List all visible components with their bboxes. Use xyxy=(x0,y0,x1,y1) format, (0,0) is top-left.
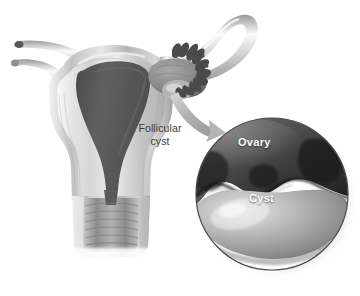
magnified-ovary-inset xyxy=(0,0,360,296)
cyst-label: Cyst xyxy=(249,192,274,204)
follicular-cyst-label: Follicular cyst xyxy=(118,122,202,148)
ovary-label: Ovary xyxy=(238,136,271,148)
illustration-canvas: Follicular cyst Ovary Cyst xyxy=(0,0,360,296)
